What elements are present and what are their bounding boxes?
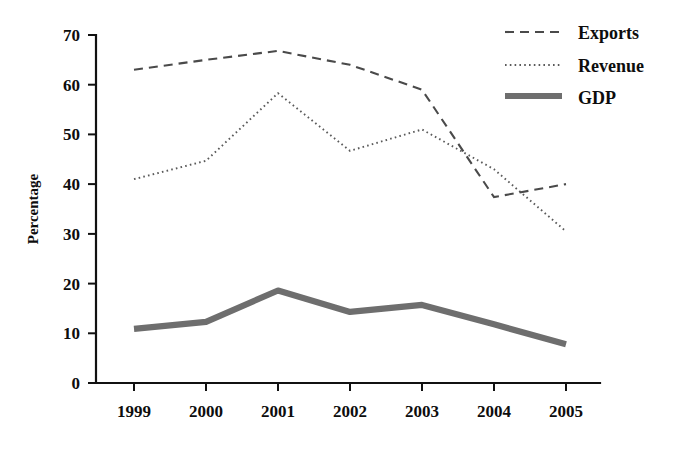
series-line-exports <box>134 51 566 197</box>
y-tick-label: 20 <box>63 275 80 294</box>
y-axis-ticks <box>88 35 96 383</box>
x-tick-label: 2004 <box>477 402 512 421</box>
legend-item-gdp: GDP <box>505 88 616 108</box>
y-axis-tick-labels: 70 60 50 40 30 20 10 0 <box>63 26 80 393</box>
legend-label: Revenue <box>578 56 644 76</box>
y-tick-label: 40 <box>63 175 80 194</box>
x-axis-ticks <box>134 383 566 391</box>
x-tick-label: 2003 <box>405 402 439 421</box>
x-tick-label: 1999 <box>117 402 151 421</box>
legend-label: Exports <box>578 23 639 43</box>
legend-item-revenue: Revenue <box>505 56 644 76</box>
y-tick-label: 0 <box>72 374 81 393</box>
series-line-revenue <box>134 93 566 231</box>
x-tick-label: 2002 <box>333 402 367 421</box>
legend-item-exports: Exports <box>505 23 639 43</box>
x-tick-label: 2001 <box>261 402 295 421</box>
y-tick-label: 10 <box>63 324 80 343</box>
y-tick-label: 60 <box>63 76 80 95</box>
y-tick-label: 70 <box>63 26 80 45</box>
y-tick-label: 30 <box>63 225 80 244</box>
y-axis-title: Percentage <box>25 173 41 244</box>
series-line-gdp <box>134 291 566 345</box>
x-tick-label: 2005 <box>549 402 583 421</box>
chart-canvas: 70 60 50 40 30 20 10 0 Percentage 1999 2… <box>0 0 700 449</box>
legend-label: GDP <box>578 88 616 108</box>
legend: Exports Revenue GDP <box>505 23 644 108</box>
line-chart: 70 60 50 40 30 20 10 0 Percentage 1999 2… <box>0 0 700 449</box>
x-axis-tick-labels: 1999 2000 2001 2002 2003 2004 2005 <box>117 402 583 421</box>
y-tick-label: 50 <box>63 125 80 144</box>
x-tick-label: 2000 <box>189 402 223 421</box>
